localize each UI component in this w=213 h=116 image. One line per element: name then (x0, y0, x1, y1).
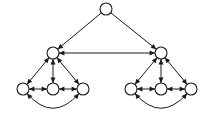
edge-r2-r3-arrowhead-start (167, 87, 172, 92)
edge-l2-l3-arrowhead-end (72, 87, 77, 92)
edge-l1-l2-arrowhead-end (42, 87, 47, 92)
graph-svg (0, 0, 213, 116)
edge-r1-r2-arrowhead-end (150, 87, 155, 92)
edge-r0-r2-arrowhead-start (159, 59, 164, 64)
edge-l0-r0-arrowhead-end (150, 51, 155, 56)
graph-node-r1[interactable] (125, 83, 137, 95)
edge-l0-r0-arrowhead-start (59, 51, 64, 56)
graph-node-r2[interactable] (155, 83, 167, 95)
graph-node-l2[interactable] (47, 83, 59, 95)
diagram-canvas (0, 0, 213, 116)
edge-l0-l2-arrowhead-end (51, 78, 56, 83)
edge-r2-r3-arrowhead-end (180, 87, 185, 92)
graph-node-r3[interactable] (185, 83, 197, 95)
node-layer (17, 3, 197, 95)
graph-node-l3[interactable] (77, 83, 89, 95)
edge-root-r0 (111, 13, 157, 50)
edge-r1-r3 (135, 93, 187, 108)
edge-l0-l2-arrowhead-start (51, 59, 56, 64)
graph-node-l1[interactable] (17, 83, 29, 95)
graph-node-l0[interactable] (47, 47, 59, 59)
edge-l2-l3-arrowhead-start (59, 87, 64, 92)
edge-r1-r2-arrowhead-start (137, 87, 142, 92)
graph-node-r0[interactable] (155, 47, 167, 59)
edge-l1-l3 (27, 93, 79, 108)
edge-r0-r2-arrowhead-end (159, 78, 164, 83)
edge-root-l0 (58, 13, 102, 49)
edge-l1-l2-arrowhead-start (29, 87, 34, 92)
graph-node-root[interactable] (100, 3, 112, 15)
